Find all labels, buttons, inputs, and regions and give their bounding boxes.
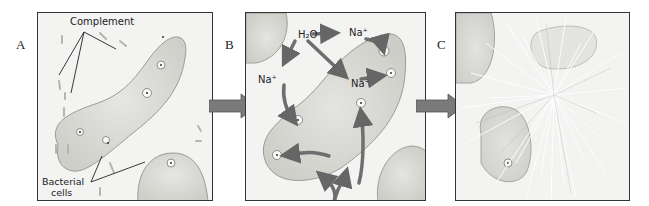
label-complement: Complement	[70, 16, 134, 27]
bacterial-cell-large	[55, 37, 185, 171]
label-sodium-top: Na⁺	[349, 27, 368, 38]
panel-letter-c: C	[437, 37, 446, 53]
panel-a: Complement Bacterial cells	[37, 12, 213, 201]
panel-a-illustration	[38, 13, 213, 201]
bacterial-cell-bottom-left	[480, 107, 531, 182]
panel-b-illustration	[246, 13, 426, 201]
label-bacterial: Bacterial	[42, 176, 84, 187]
label-cells: cells	[51, 187, 72, 198]
label-water: H₂O	[298, 29, 317, 40]
panel-c	[455, 12, 630, 201]
panel-b: H₂O Na⁺ Na⁺ Na⁺	[245, 12, 426, 201]
label-sodium-right: Na⁺	[351, 78, 370, 89]
label-sodium-left: Na⁺	[258, 74, 277, 85]
bacterial-cell-partial-top	[246, 13, 287, 63]
bacterial-cell-top-left	[456, 13, 494, 83]
panel-letter-a: A	[16, 37, 25, 53]
panel-c-illustration	[456, 13, 630, 201]
panel-letter-b: B	[225, 37, 234, 53]
bacterial-cell-partial-bottom	[377, 146, 426, 201]
